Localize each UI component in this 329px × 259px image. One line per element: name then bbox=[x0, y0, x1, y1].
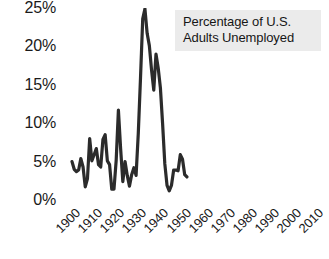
x-axis-tick-label: 2010 bbox=[296, 206, 326, 236]
chart-title-line-1: Percentage of U.S. bbox=[183, 14, 315, 30]
chart-title-box: Percentage of U.S. Adults Unemployed bbox=[175, 10, 321, 51]
series-polyline bbox=[72, 9, 187, 191]
y-axis-tick-label: 25% bbox=[2, 0, 56, 16]
y-axis-tick-label: 10% bbox=[2, 115, 56, 131]
chart-title-line-2: Adults Unemployed bbox=[183, 30, 315, 46]
x-axis: 1900191019201930194019501960197019801990… bbox=[0, 200, 329, 259]
y-axis-tick-label: 20% bbox=[2, 38, 56, 54]
y-axis-tick-label: 5% bbox=[2, 154, 56, 170]
y-axis-tick-label: 15% bbox=[2, 77, 56, 93]
chart-figure: 25%20%15%10%5%0% 19001910192019301940195… bbox=[0, 0, 329, 259]
